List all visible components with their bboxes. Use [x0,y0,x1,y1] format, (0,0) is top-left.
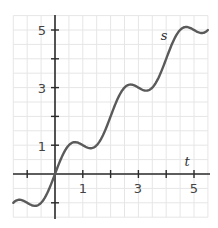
y-tick-label-5: 5 [38,23,46,38]
chart: 1 3 5 1 3 5 t s [0,0,218,228]
y-axis-variable-label: s [161,28,168,43]
y-tick-label-3: 3 [38,81,46,96]
x-axis-variable-label: t [184,154,190,169]
x-tick-label-5: 5 [190,181,198,196]
x-tick-label-3: 3 [134,181,142,196]
y-tick-label-1: 1 [38,139,46,154]
x-tick-label-1: 1 [79,181,87,196]
